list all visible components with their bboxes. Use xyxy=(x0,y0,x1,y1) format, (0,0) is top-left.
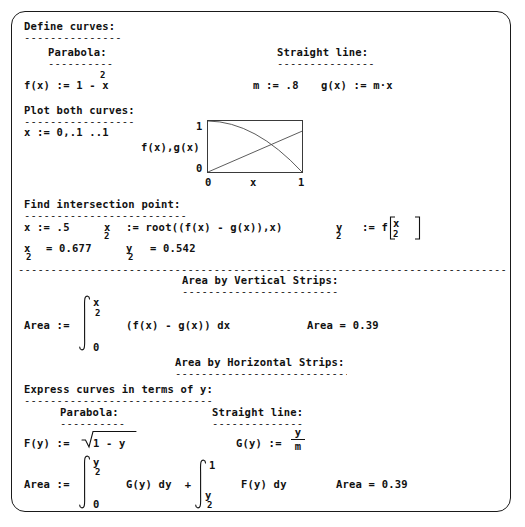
root-lhs-subscript: 2 xyxy=(104,230,110,242)
parabola-rule: ---------- xyxy=(48,57,120,69)
int1-upper-subscript: 2 xyxy=(95,466,101,478)
plot-xtick-left: 0 xyxy=(205,176,212,188)
y2-assign-operator: := f xyxy=(362,221,388,233)
express-in-y-heading-rule: ----------------------------- xyxy=(24,394,220,406)
section-separator: ----------------------------------------… xyxy=(18,263,507,274)
vertical-area-result: Area = 0.39 xyxy=(307,319,379,331)
fraction-numerator: y xyxy=(291,427,305,438)
horizontal-strips-heading-rule: --------------------------- xyxy=(175,367,347,379)
horizontal-area-result: Area = 0.39 xyxy=(336,478,408,490)
x2-result-subscript: 2 xyxy=(26,251,32,263)
y2-definition-subscript: 2 xyxy=(336,230,342,242)
plot-curves-svg xyxy=(208,121,302,172)
vertical-area-assignment[interactable]: Area := xyxy=(24,319,70,331)
intersection-heading-rule: ------------------------- xyxy=(24,209,188,221)
line-curve xyxy=(208,131,302,172)
vertical-integral-upper-subscript: 2 xyxy=(95,307,101,319)
worksheet-canvas: Define curves: --------------- Parabola:… xyxy=(0,0,525,527)
parabola-curve xyxy=(208,121,302,172)
plot-x-axis-label: x xyxy=(250,176,257,188)
integral-sign-vertical xyxy=(76,295,94,351)
G-of-y-assignment[interactable]: G(y) := xyxy=(236,437,282,449)
intersection-guess[interactable]: x := .5 xyxy=(24,221,70,233)
plot-xtick-right: 1 xyxy=(298,176,305,188)
vertical-integral-lower: 0 xyxy=(93,341,100,353)
root-expression[interactable]: := root((f(x) - g(x)),x) xyxy=(126,221,283,233)
int1-integrand: G(y) dy + xyxy=(126,478,191,490)
straight-line-rule: --------------- xyxy=(277,57,377,69)
parabola-definition[interactable]: f(x) := 1 - x xyxy=(24,79,109,91)
x2-result-value: = 0.677 xyxy=(46,242,92,254)
y-over-m-fraction: y m xyxy=(291,427,305,452)
plot-range-definition[interactable]: x := 0,.1 ..1 xyxy=(24,126,109,138)
int2-upper: 1 xyxy=(209,459,216,471)
sqrt-radicand: 1 - y xyxy=(93,437,126,449)
define-curves-heading-rule: --------------- xyxy=(24,31,124,43)
line-function-definition[interactable]: g(x) := m·x xyxy=(321,79,393,91)
int2-integrand: F(y) dy xyxy=(241,478,287,490)
slope-definition[interactable]: m := .8 xyxy=(253,79,299,91)
y2-result-value: = 0.542 xyxy=(150,242,196,254)
curve-plot[interactable] xyxy=(207,120,303,173)
y2-argument-subscript: 2 xyxy=(393,228,399,240)
fraction-denominator: m xyxy=(291,441,305,452)
vertical-strips-heading-rule: ------------------------- xyxy=(182,285,338,297)
F-of-y-assignment[interactable]: F(y) := xyxy=(24,437,70,449)
y2-result-subscript: 2 xyxy=(128,251,134,263)
horizontal-area-assignment[interactable]: Area := xyxy=(24,478,70,490)
vertical-integrand: (f(x) - g(x)) dx xyxy=(126,319,230,331)
int2-lower-subscript: 2 xyxy=(207,499,213,511)
plot-ytick-bottom: 0 xyxy=(196,162,203,174)
integral-sign-horizontal-first xyxy=(76,455,94,509)
plot-y-axis-label: f(x),g(x) xyxy=(141,141,200,153)
int1-lower: 0 xyxy=(93,498,100,510)
plot-ytick-top: 1 xyxy=(196,120,203,132)
